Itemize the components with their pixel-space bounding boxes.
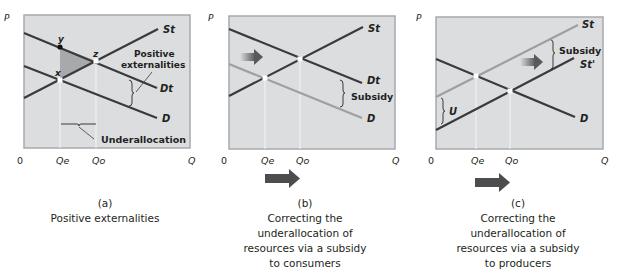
panel-b-caption-line: resources via a subsidy [230, 241, 380, 256]
st-prime-label: St' [580, 59, 595, 70]
quantity-shift-arrow-icon [475, 173, 510, 192]
panel-c: Subsidy U P St St' D 0 Qe Qo Q [416, 13, 609, 192]
underallocation-label: Underallocation [101, 134, 186, 145]
panel-a-caption: (a) Positive externalities [30, 196, 180, 226]
qe-label: Qe [56, 155, 69, 166]
panel-b-caption-line: Correcting the [230, 211, 380, 226]
panel-a-letter: (a) [30, 196, 180, 211]
panel-b-caption: (b) Correcting the underallocation of re… [230, 196, 380, 271]
d-label: D [367, 113, 375, 124]
panel-a-caption-line: Positive externalities [30, 211, 180, 226]
point-z [94, 59, 99, 64]
st-label: St [582, 19, 595, 30]
point-e [474, 74, 479, 79]
x-axis-label: Q [601, 155, 609, 166]
qo-label: Qo [92, 155, 105, 166]
panel-b-caption-line: to consumers [230, 256, 380, 271]
qo-label: Qo [296, 155, 309, 166]
st-label: St [163, 24, 176, 35]
panel-c-caption-line: resources via a subsidy [443, 241, 593, 256]
y-axis-label: P [208, 13, 214, 23]
st-label: St [368, 23, 381, 34]
qo-label: Qo [505, 155, 518, 166]
panel-c-caption-line: to producers [443, 256, 593, 271]
panel-c-letter: (c) [443, 196, 593, 211]
panel-c-plot-area [436, 17, 603, 149]
origin-label: 0 [221, 155, 227, 166]
dt-label: Dt [160, 83, 174, 94]
u-label: U [449, 106, 457, 117]
panel-c-caption: (c) Correcting the underallocation of re… [443, 196, 593, 271]
externalities-label-2: externalities [121, 60, 185, 70]
panel-b-caption-line: underallocation of [230, 226, 380, 241]
d-label: D [162, 113, 170, 124]
point-e [263, 76, 268, 81]
y-axis-label: P [4, 13, 10, 23]
panel-c-caption-line: underallocation of [443, 226, 593, 241]
origin-label: 0 [17, 155, 23, 166]
qe-label: Qe [261, 155, 274, 166]
qe-label: Qe [471, 155, 484, 166]
point-x-label: x [54, 68, 62, 78]
point-o [298, 57, 303, 62]
panel-c-caption-line: Correcting the [443, 211, 593, 226]
d-label: D [580, 113, 588, 124]
panel-a: P y z x St Dt D Positive externalities U… [4, 13, 196, 166]
panel-b: P St Dt D Subsidy 0 Qe Qo Q [208, 13, 400, 188]
point-x [58, 78, 63, 83]
dt-label: Dt [367, 75, 381, 86]
externalities-label-1: Positive [134, 49, 175, 59]
point-z-label: z [92, 49, 99, 59]
x-axis-label: Q [392, 155, 400, 166]
y-axis-label: P [416, 13, 422, 23]
quantity-shift-arrow-icon [265, 169, 300, 188]
point-o [508, 89, 513, 94]
point-y [57, 44, 62, 49]
subsidy-label: Subsidy [559, 45, 602, 56]
subsidy-label: Subsidy [351, 91, 394, 102]
x-axis-label: Q [188, 155, 196, 166]
panel-b-letter: (b) [230, 196, 380, 211]
origin-label: 0 [428, 155, 434, 166]
